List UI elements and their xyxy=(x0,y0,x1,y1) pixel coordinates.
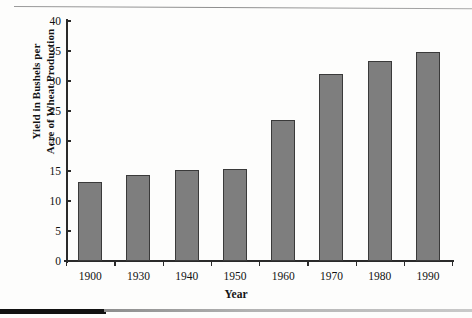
y-tick-mark xyxy=(66,140,71,142)
x-tick-label-1930: 1930 xyxy=(127,270,150,282)
bar-1960 xyxy=(271,120,295,261)
x-tick-label-1970: 1970 xyxy=(320,270,343,282)
y-tick-mark xyxy=(66,230,71,232)
bar-1950 xyxy=(223,169,247,261)
x-tick-mark-end xyxy=(452,260,453,266)
y-tick-40: 40 xyxy=(50,15,67,27)
y-tick-label: 0 xyxy=(55,255,66,267)
y-tick-mark xyxy=(66,50,71,52)
plot-area: 0510152025303540 xyxy=(66,21,452,261)
y-tick-25: 25 xyxy=(50,105,67,117)
y-tick-mark xyxy=(66,170,71,172)
x-tick-label-1940: 1940 xyxy=(175,270,198,282)
y-tick-0: 0 xyxy=(55,255,66,267)
y-tick-20: 20 xyxy=(50,135,67,147)
y-tick-label: 5 xyxy=(55,225,66,237)
x-tick-label-1960: 1960 xyxy=(272,270,295,282)
x-tick-mark-6 xyxy=(356,260,357,266)
y-tick-label: 25 xyxy=(50,105,67,117)
x-tick-mark-1 xyxy=(114,260,115,266)
x-tick-label-1980: 1980 xyxy=(368,270,391,282)
bar-1970 xyxy=(319,74,343,261)
x-axis-title: Year xyxy=(0,288,472,300)
x-tick-mark-2 xyxy=(163,260,164,266)
y-tick-30: 30 xyxy=(50,75,67,87)
x-tick-mark-0 xyxy=(66,260,67,266)
bar-1930 xyxy=(126,175,150,261)
y-tick-5: 5 xyxy=(55,225,66,237)
y-tick-mark xyxy=(66,110,71,112)
x-tick-mark-3 xyxy=(211,260,212,266)
y-tick-mark xyxy=(66,20,71,22)
y-tick-label: 35 xyxy=(50,45,67,57)
x-tick-mark-4 xyxy=(259,260,260,266)
y-tick-35: 35 xyxy=(50,45,67,57)
y-tick-mark xyxy=(66,80,71,82)
y-tick-10: 10 xyxy=(50,195,67,207)
page-rule-top xyxy=(14,6,472,9)
x-tick-label-1950: 1950 xyxy=(223,270,246,282)
chart-figure: Yield in Bushels per Acre of Wheat Produ… xyxy=(0,0,472,318)
page-rule-bottom-light xyxy=(104,309,472,312)
bar-1990 xyxy=(416,52,440,261)
y-tick-label: 40 xyxy=(50,15,67,27)
y-tick-label: 20 xyxy=(50,135,67,147)
y-tick-label: 10 xyxy=(50,195,67,207)
bar-1940 xyxy=(175,170,199,261)
x-tick-mark-5 xyxy=(307,260,308,266)
bar-1900 xyxy=(78,182,102,261)
x-tick-mark-7 xyxy=(404,260,405,266)
y-tick-mark xyxy=(66,200,71,202)
y-tick-15: 15 xyxy=(50,165,67,177)
y-tick-label: 30 xyxy=(50,75,67,87)
x-tick-label-1990: 1990 xyxy=(416,270,439,282)
page-rule-bottom-dark xyxy=(0,309,106,314)
y-tick-label: 15 xyxy=(50,165,67,177)
x-tick-label-1900: 1900 xyxy=(79,270,102,282)
bar-1980 xyxy=(368,61,392,261)
